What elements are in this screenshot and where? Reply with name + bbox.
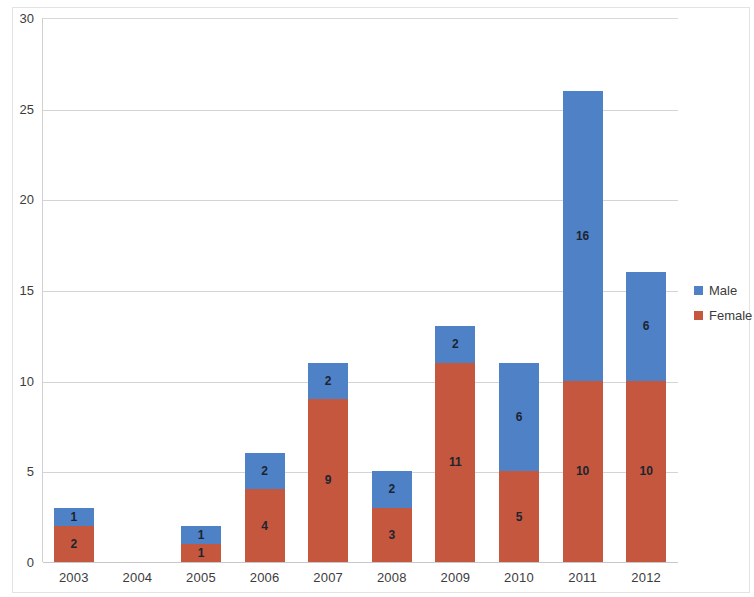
chart-legend: Male Female bbox=[694, 278, 752, 328]
bar-segment-female-2003[interactable]: 2 bbox=[54, 526, 94, 562]
bar-label-male-2007: 2 bbox=[325, 375, 332, 387]
legend-label-male: Male bbox=[709, 283, 737, 298]
bar-segment-male-2006[interactable]: 2 bbox=[245, 453, 285, 489]
stacked-bar-chart: 051015202530 2111429232112561016106 2003… bbox=[0, 0, 754, 597]
bar-label-female-2011: 10 bbox=[576, 465, 589, 477]
y-tick-label-0: 0 bbox=[27, 555, 34, 570]
bar-segment-male-2009[interactable]: 2 bbox=[435, 326, 475, 362]
bar-segment-female-2011[interactable]: 10 bbox=[563, 381, 603, 562]
bar-label-male-2010: 6 bbox=[516, 411, 523, 423]
bar-segment-female-2012[interactable]: 10 bbox=[626, 381, 666, 562]
bar-label-male-2009: 2 bbox=[452, 338, 459, 350]
x-axis: 2003200420052006200720082009201020112012 bbox=[42, 566, 678, 594]
bar-segment-female-2009[interactable]: 11 bbox=[435, 363, 475, 562]
legend-swatch-female-icon bbox=[694, 311, 703, 320]
y-tick-label-30: 30 bbox=[20, 11, 34, 26]
x-tick-label-2011: 2011 bbox=[551, 570, 615, 585]
legend-label-female: Female bbox=[709, 308, 752, 323]
x-tick-label-2012: 2012 bbox=[614, 570, 678, 585]
bar-label-female-2005: 1 bbox=[198, 547, 205, 559]
bar-label-male-2003: 1 bbox=[70, 511, 77, 523]
bar-label-male-2012: 6 bbox=[643, 320, 650, 332]
bar-segment-male-2012[interactable]: 6 bbox=[626, 272, 666, 381]
bar-label-male-2005: 1 bbox=[198, 529, 205, 541]
bar-group-2011[interactable]: 1016 bbox=[563, 18, 603, 562]
bar-segment-female-2005[interactable]: 1 bbox=[181, 544, 221, 562]
bar-segment-male-2008[interactable]: 2 bbox=[372, 471, 412, 507]
bar-group-2004[interactable] bbox=[117, 18, 157, 562]
bar-label-male-2011: 16 bbox=[576, 230, 589, 242]
bar-segment-male-2003[interactable]: 1 bbox=[54, 508, 94, 526]
bar-label-female-2008: 3 bbox=[388, 529, 395, 541]
y-tick-label-5: 5 bbox=[27, 464, 34, 479]
x-tick-label-2009: 2009 bbox=[424, 570, 488, 585]
y-tick-label-20: 20 bbox=[20, 192, 34, 207]
bar-group-2009[interactable]: 112 bbox=[435, 18, 475, 562]
x-tick-label-2003: 2003 bbox=[42, 570, 106, 585]
y-axis: 051015202530 bbox=[0, 0, 42, 597]
legend-item-male[interactable]: Male bbox=[694, 278, 752, 303]
gridline-0 bbox=[43, 562, 678, 563]
bar-label-female-2006: 4 bbox=[261, 520, 268, 532]
bar-group-2010[interactable]: 56 bbox=[499, 18, 539, 562]
bar-segment-male-2010[interactable]: 6 bbox=[499, 363, 539, 472]
x-tick-label-2007: 2007 bbox=[296, 570, 360, 585]
bar-group-2008[interactable]: 32 bbox=[372, 18, 412, 562]
bar-segment-male-2007[interactable]: 2 bbox=[308, 363, 348, 399]
x-tick-label-2005: 2005 bbox=[169, 570, 233, 585]
bars-layer: 2111429232112561016106 bbox=[42, 18, 678, 562]
bar-group-2012[interactable]: 106 bbox=[626, 18, 666, 562]
bar-label-female-2012: 10 bbox=[640, 465, 653, 477]
x-tick-label-2008: 2008 bbox=[360, 570, 424, 585]
bar-segment-male-2005[interactable]: 1 bbox=[181, 526, 221, 544]
bar-segment-male-2011[interactable]: 16 bbox=[563, 91, 603, 381]
y-tick-label-10: 10 bbox=[20, 373, 34, 388]
bar-label-female-2003: 2 bbox=[70, 538, 77, 550]
bar-segment-female-2010[interactable]: 5 bbox=[499, 471, 539, 562]
x-tick-label-2010: 2010 bbox=[487, 570, 551, 585]
bar-segment-female-2008[interactable]: 3 bbox=[372, 508, 412, 562]
bar-label-female-2010: 5 bbox=[516, 511, 523, 523]
y-tick-label-25: 25 bbox=[20, 101, 34, 116]
bar-label-female-2007: 9 bbox=[325, 474, 332, 486]
x-tick-label-2006: 2006 bbox=[233, 570, 297, 585]
bar-label-male-2008: 2 bbox=[388, 483, 395, 495]
bar-group-2006[interactable]: 42 bbox=[245, 18, 285, 562]
bar-group-2007[interactable]: 92 bbox=[308, 18, 348, 562]
bar-group-2003[interactable]: 21 bbox=[54, 18, 94, 562]
bar-group-2005[interactable]: 11 bbox=[181, 18, 221, 562]
bar-label-male-2006: 2 bbox=[261, 465, 268, 477]
bar-segment-female-2006[interactable]: 4 bbox=[245, 489, 285, 562]
bar-segment-female-2007[interactable]: 9 bbox=[308, 399, 348, 562]
legend-item-female[interactable]: Female bbox=[694, 303, 752, 328]
y-tick-label-15: 15 bbox=[20, 283, 34, 298]
legend-swatch-male-icon bbox=[694, 286, 703, 295]
bar-label-female-2009: 11 bbox=[449, 456, 462, 468]
x-tick-label-2004: 2004 bbox=[106, 570, 170, 585]
